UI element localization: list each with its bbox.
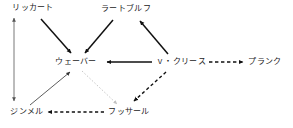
diagram-canvas: リッカート ラートブルフ ウェーバー ｖ・クリース プランク ジンメル フッサー… <box>0 0 293 128</box>
node-rickert[interactable]: リッカート <box>12 3 54 13</box>
edge-simmel-to-weber <box>30 72 70 105</box>
edge-weber-to-husserl <box>82 71 117 104</box>
node-radbruch[interactable]: ラートブルフ <box>101 4 151 14</box>
edge-rickert-to-weber <box>41 19 71 53</box>
edge-kries-to-radbruch <box>140 21 168 54</box>
node-simmel[interactable]: ジンメル <box>10 107 43 117</box>
edge-husserl-up-to-kries <box>134 72 166 101</box>
node-planck[interactable]: プランク <box>248 57 281 67</box>
node-kries[interactable]: ｖ・クリース <box>156 57 206 67</box>
node-husserl[interactable]: フッサール <box>108 107 150 117</box>
node-weber[interactable]: ウェーバー <box>55 57 97 67</box>
edge-radbruch-to-weber <box>85 20 113 53</box>
